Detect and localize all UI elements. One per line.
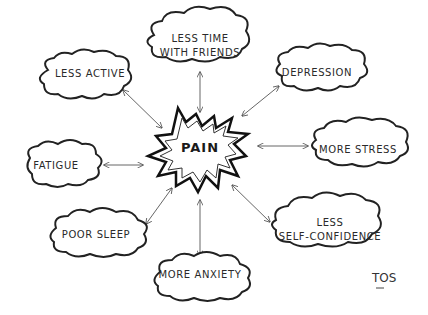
label-poor-sleep: POOR SLEEP: [62, 229, 131, 240]
pain-mind-map: PAIN LESS ACTIVE LESS TIME WITH FRIENDS …: [0, 0, 428, 315]
pain-starburst: PAIN: [148, 108, 248, 192]
label-less-sc-line2: SELF-CONFIDENCE: [279, 231, 381, 242]
arrow-less-active: [123, 90, 162, 128]
arrow-depression: [242, 86, 279, 116]
label-fatigue: FATIGUE: [33, 160, 79, 171]
label-more-anxiety: MORE ANXIETY: [159, 269, 242, 280]
arrow-less-self-confidence: [232, 185, 270, 222]
label-less-sc-line1: LESS: [317, 217, 344, 228]
arrow-poor-sleep: [146, 188, 172, 224]
cloud-more-stress: [312, 117, 408, 166]
artist-signature: TOS: [371, 271, 396, 285]
label-less-time-line1: LESS TIME: [171, 33, 228, 44]
svg-text:PAIN: PAIN: [181, 140, 219, 155]
label-more-stress: MORE STRESS: [319, 144, 397, 155]
label-depression: DEPRESSION: [282, 67, 352, 78]
label-less-time-line2: WITH FRIENDS: [160, 47, 240, 58]
label-less-active: LESS ACTIVE: [55, 68, 125, 79]
